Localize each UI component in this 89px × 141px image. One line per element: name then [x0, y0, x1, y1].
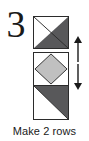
step-number: 3: [2, 1, 30, 47]
half-square-triangle-bottom-block: [33, 85, 69, 120]
half-square-triangle-bottom-icon: [34, 86, 68, 119]
caption-text: Make 2 rows: [0, 124, 89, 138]
arrow-up-icon: [74, 36, 82, 62]
arrow-down-icon: [74, 64, 82, 90]
row-direction-arrows: [71, 36, 85, 90]
half-square-triangle-top-icon: [34, 17, 68, 48]
square-in-a-square-icon: [34, 53, 68, 85]
block-stack: [33, 16, 69, 120]
square-in-a-square-block: [33, 52, 69, 86]
arrow-pair-icon: [71, 36, 85, 90]
quilt-step-diagram: 3: [0, 0, 89, 141]
half-square-triangle-top-block: [33, 16, 69, 49]
